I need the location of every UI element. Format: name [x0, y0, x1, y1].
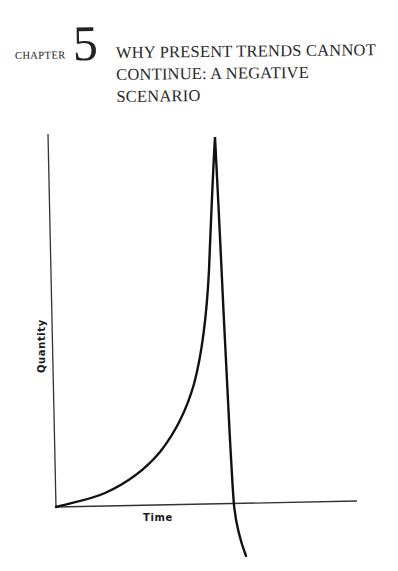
overshoot-collapse-figure: Quantity Time [0, 0, 398, 571]
y-axis [48, 134, 56, 507]
x-axis [56, 501, 357, 507]
x-axis-label: Time [143, 512, 173, 523]
y-axis-label: Quantity [36, 319, 47, 373]
quantity-curve [56, 137, 246, 556]
